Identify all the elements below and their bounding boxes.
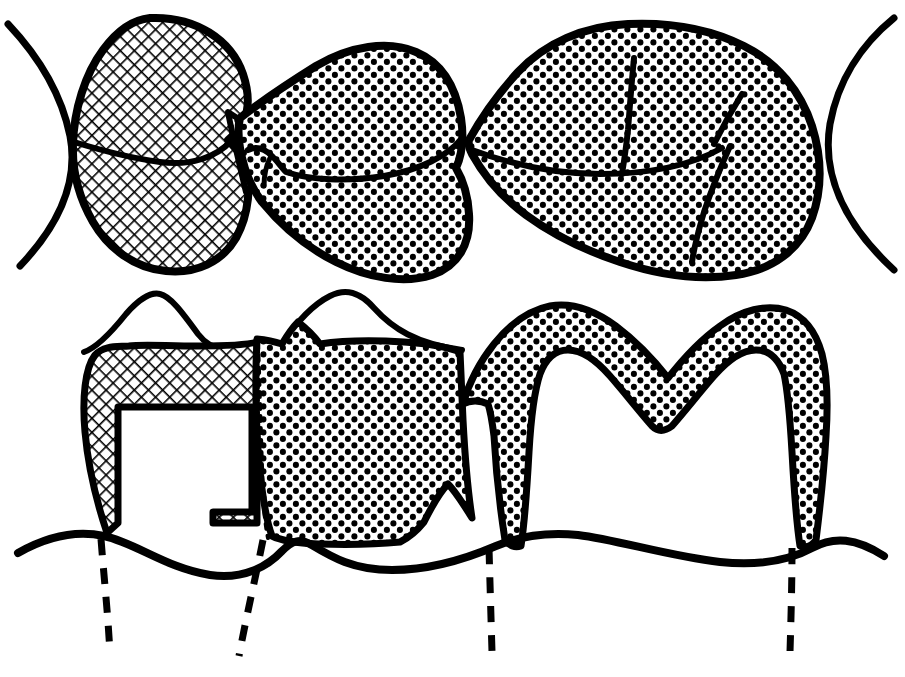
gingival-margin-line — [18, 534, 884, 576]
root-outline-4 — [790, 548, 792, 652]
adjacent-tooth-left-outline — [8, 24, 72, 266]
adjacent-tooth-right-outline — [828, 18, 894, 270]
occlusal-molar-retainer — [469, 24, 820, 277]
buccal-section-view — [18, 292, 884, 656]
root-outline-3 — [489, 548, 492, 652]
buccal-molar-retainer — [463, 305, 827, 547]
occlusal-pontic — [239, 46, 470, 279]
dental-bridge-figure: Fixed partial denture (three-unit bridge… — [0, 0, 905, 677]
occlusal-view — [8, 18, 894, 279]
root-outline-2 — [239, 540, 263, 656]
occlusal-premolar-retainer — [73, 18, 249, 272]
buccal-pontic — [256, 322, 472, 544]
buccal-premolar-retainer — [84, 342, 257, 533]
figure-canvas: Fixed partial denture (three-unit bridge… — [0, 0, 905, 677]
root-outline-1 — [101, 539, 110, 654]
